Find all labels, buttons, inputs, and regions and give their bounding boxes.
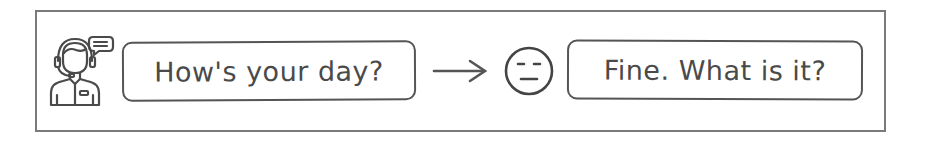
support-agent-icon	[43, 33, 119, 109]
question-text: How's your day?	[154, 55, 384, 87]
arrow-right-icon	[432, 58, 488, 84]
neutral-face-icon	[503, 45, 555, 97]
question-bubble: How's your day?	[122, 40, 416, 102]
answer-bubble: Fine. What is it?	[567, 39, 863, 100]
answer-text: Fine. What is it?	[604, 54, 827, 86]
